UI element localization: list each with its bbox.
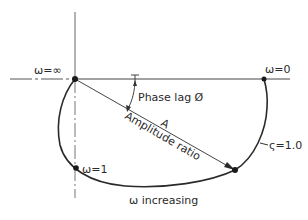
omega-one-point [73, 165, 79, 171]
amplitude-end-point [232, 167, 238, 173]
label-omega-infinity: ω=∞ [34, 64, 62, 77]
origin-point [72, 76, 78, 82]
label-phase-lag: Phase lag Ø [138, 91, 204, 104]
omega-zero-point [262, 77, 267, 82]
label-damping: ς=1.0 [269, 139, 302, 152]
label-omega-one: ω=1 [82, 163, 107, 176]
phase-lag-arrow-top [133, 80, 137, 86]
label-amplitude-ratio: Amplitude ratio [123, 109, 204, 163]
damping-leader [260, 143, 268, 145]
label-omega-zero: ω=0 [265, 63, 290, 76]
polar-plot-diagram: ω=∞ ω=0 ω=1 Phase lag Ø A Amplitude rati… [0, 0, 308, 220]
label-omega-increasing: ω increasing [129, 194, 198, 207]
